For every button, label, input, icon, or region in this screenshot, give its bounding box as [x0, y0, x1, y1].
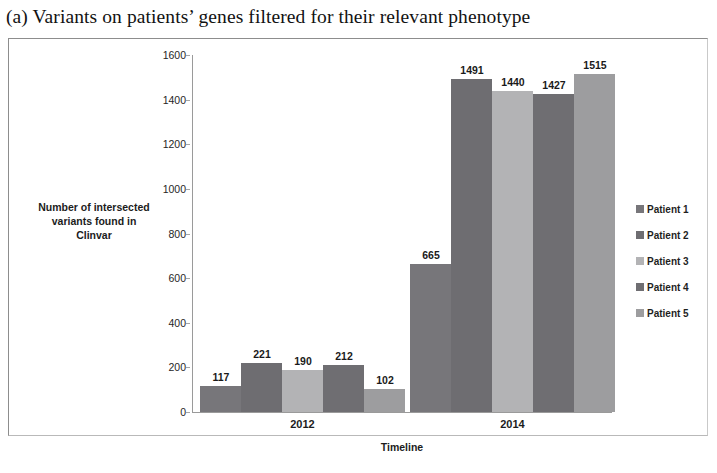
legend-item[interactable]: Patient 5 — [636, 300, 714, 326]
bar-group-2012: 117221190212102 — [200, 55, 405, 412]
bar-value-label: 102 — [357, 374, 413, 386]
plot-area: 1172211902121026651491144014271515 — [192, 55, 612, 412]
bar[interactable] — [241, 363, 282, 412]
legend-swatch-icon — [636, 309, 644, 317]
bar[interactable] — [533, 94, 574, 412]
bar-value-label: 212 — [316, 350, 372, 362]
bar-value-label: 1491 — [444, 64, 500, 76]
x-axis-line — [192, 412, 612, 413]
y-axis-tick-mark — [186, 100, 190, 101]
y-axis-tick-label: 1000 — [140, 183, 186, 195]
y-axis-tick-mark — [186, 412, 190, 413]
legend-swatch-icon — [636, 231, 644, 239]
y-axis-tick-label: 400 — [140, 317, 186, 329]
y-axis-tick-label: 1600 — [140, 49, 186, 61]
bar[interactable] — [282, 370, 323, 412]
legend-swatch-icon — [636, 283, 644, 291]
bar-value-label: 1515 — [567, 59, 623, 71]
bar[interactable] — [200, 386, 241, 412]
bar[interactable] — [323, 365, 364, 412]
y-axis-tick-mark — [186, 323, 190, 324]
y-axis-tick-label: 200 — [140, 361, 186, 373]
y-axis-tick-labels: 02004006008001000120014001600 — [138, 55, 186, 412]
bar[interactable] — [364, 389, 405, 412]
legend-item[interactable]: Patient 2 — [636, 222, 714, 248]
y-axis-tick-label: 800 — [140, 228, 186, 240]
x-axis-category-label: 2012 — [243, 418, 363, 430]
x-axis-title: Timeline — [192, 441, 612, 453]
bar[interactable] — [451, 79, 492, 412]
legend-label: Patient 4 — [647, 282, 689, 293]
legend-item[interactable]: Patient 4 — [636, 274, 714, 300]
y-axis-tick-label: 1400 — [140, 94, 186, 106]
y-axis-tick-mark — [186, 55, 190, 56]
legend-label: Patient 3 — [647, 256, 689, 267]
y-axis-tick-mark — [186, 144, 190, 145]
y-axis-tick-mark — [186, 367, 190, 368]
y-axis-tick-mark — [186, 189, 190, 190]
legend-swatch-icon — [636, 257, 644, 265]
legend-item[interactable]: Patient 1 — [636, 196, 714, 222]
bar[interactable] — [410, 264, 451, 412]
bar[interactable] — [574, 74, 615, 412]
legend-item[interactable]: Patient 3 — [636, 248, 714, 274]
x-axis-category-label: 2014 — [453, 418, 573, 430]
y-axis-tick-label: 0 — [140, 406, 186, 418]
chart-legend: Patient 1Patient 2Patient 3Patient 4Pati… — [636, 196, 714, 326]
legend-label: Patient 2 — [647, 230, 689, 241]
y-axis-tick-label: 1200 — [140, 138, 186, 150]
y-axis-tick-mark — [186, 278, 190, 279]
y-axis-tick-mark — [186, 234, 190, 235]
figure-caption: (a) Variants on patients’ genes filtered… — [6, 2, 711, 32]
legend-label: Patient 5 — [647, 308, 689, 319]
legend-label: Patient 1 — [647, 204, 689, 215]
legend-swatch-icon — [636, 205, 644, 213]
bar-group-2014: 6651491144014271515 — [410, 55, 615, 412]
y-axis-tick-label: 600 — [140, 272, 186, 284]
bar[interactable] — [492, 91, 533, 412]
